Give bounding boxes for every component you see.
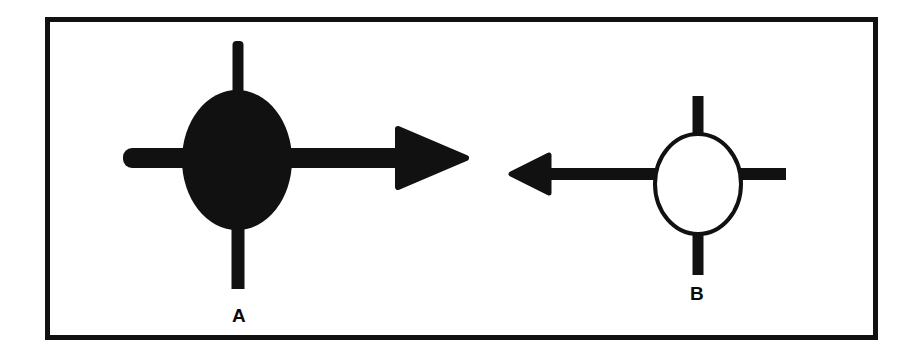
figure-artwork: [0, 0, 920, 360]
panel-b-label: B: [680, 284, 714, 303]
panel-a-filled-ellipse: [182, 90, 292, 230]
panel-b-arrow-shaft-left: [540, 168, 664, 180]
figure-container: A B: [0, 0, 920, 360]
panel-a-label: A: [222, 306, 256, 325]
panel-b-open-ellipse: [655, 134, 741, 234]
